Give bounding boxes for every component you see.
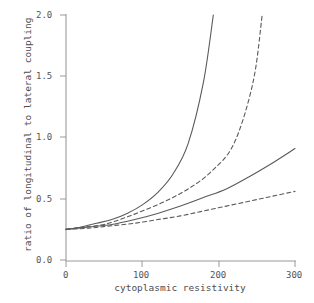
x-axis-title: cytoplasmic resistivity: [100, 282, 260, 293]
y-tick-label-0: 0.0: [36, 255, 52, 265]
chart-curves: [66, 15, 295, 229]
x-tick-label-1: 100: [133, 270, 149, 280]
x-axis-ticks: [66, 261, 295, 267]
y-tick-label-4: 2.0: [36, 10, 52, 20]
y-axis-ticks: [60, 15, 66, 260]
chart-line-curve-4: [66, 191, 295, 229]
y-tick-label-3: 1.5: [36, 71, 52, 81]
chart-line-curve-2: [66, 15, 262, 229]
chart-line-curve-1: [66, 15, 213, 229]
x-tick-label-2: 200: [210, 270, 226, 280]
chart-figure: 0.0 0.5 1.0 1.5 2.0 0 100 200 300 ratio …: [0, 0, 314, 303]
x-tick-label-3: 300: [286, 270, 302, 280]
y-tick-label-1: 0.5: [36, 194, 52, 204]
y-tick-label-2: 1.0: [36, 132, 52, 142]
y-axis-title: ratio of longitudinal to lateral couplin…: [22, 18, 33, 253]
x-tick-label-0: 0: [63, 270, 68, 280]
